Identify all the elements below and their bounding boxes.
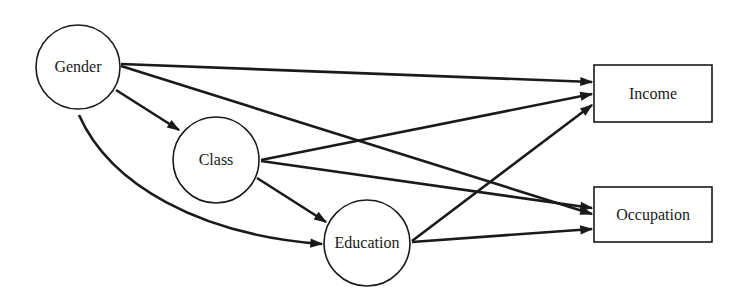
edge-gender-income bbox=[121, 64, 592, 82]
edge-education-occupation bbox=[412, 229, 592, 242]
node-education: Education bbox=[324, 200, 410, 286]
node-occupation: Occupation bbox=[594, 187, 712, 242]
edge-class-education bbox=[257, 178, 326, 222]
edge-gender-class bbox=[116, 90, 179, 130]
node-income: Income bbox=[594, 65, 712, 122]
node-education-label: Education bbox=[335, 234, 400, 251]
node-gender-label: Gender bbox=[54, 58, 102, 75]
node-class-label: Class bbox=[199, 151, 234, 168]
edge-class-occupation bbox=[261, 161, 592, 208]
node-class: Class bbox=[173, 117, 259, 203]
node-income-label: Income bbox=[629, 85, 677, 102]
node-occupation-label: Occupation bbox=[616, 206, 690, 224]
node-gender: Gender bbox=[36, 25, 120, 109]
edge-class-income bbox=[261, 94, 592, 160]
path-diagram: Gender Class Education Income Occupation bbox=[0, 0, 744, 302]
